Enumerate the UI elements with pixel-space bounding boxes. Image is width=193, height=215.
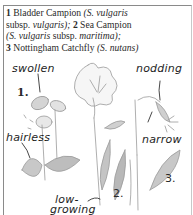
plant-3-nottingham-catchfly [130, 96, 180, 210]
number-2: 2. [113, 187, 124, 200]
label-narrow: narrow [142, 133, 182, 146]
label-nodding: nodding [136, 62, 182, 75]
label-growing: growing [50, 203, 96, 215]
plant-2-sea-campion [74, 63, 125, 205]
number-3: 3. [165, 172, 176, 185]
label-hairless: hairless [6, 131, 50, 144]
label-swollen: swollen [12, 62, 55, 75]
number-1: 1. [17, 86, 28, 99]
